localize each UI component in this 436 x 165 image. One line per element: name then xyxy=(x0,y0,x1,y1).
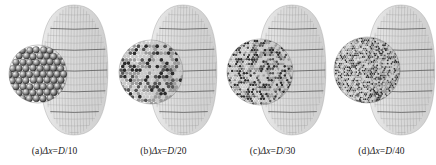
panel-a-caption-prefix: (a) xyxy=(32,146,43,156)
panel-c-caption-var: Δx xyxy=(260,146,270,156)
panel-c-caption: (c)Δx=D/30 xyxy=(218,146,327,157)
panel-b-caption-var: Δx xyxy=(152,146,162,156)
panel-d-caption: (d)Δx=D/40 xyxy=(327,146,436,157)
panel-a-rendering xyxy=(0,2,109,138)
panel-d-caption-prefix: (d) xyxy=(358,146,369,156)
panel-d-caption-var: Δx xyxy=(370,146,380,156)
panel-c-caption-num: D xyxy=(276,146,283,156)
panel-a-caption-var: Δx xyxy=(42,146,52,156)
figure-panel-d: (d)Δx=D/40 xyxy=(327,0,436,165)
figure-panel-c: (c)Δx=D/30 xyxy=(218,0,327,165)
panel-c-caption-den: /30 xyxy=(283,146,295,156)
panel-b-caption-den: /20 xyxy=(174,146,186,156)
figure-container: (a)Δx=D/10 (b)Δx=D/20 (c)Δx=D/30 (d)Δx=D… xyxy=(0,0,436,165)
panel-b-caption: (b)Δx=D/20 xyxy=(109,146,218,157)
panel-d-caption-den: /40 xyxy=(392,146,404,156)
panel-a-caption-num: D xyxy=(58,146,65,156)
panel-c-rendering xyxy=(218,2,327,138)
panel-b-caption-prefix: (b) xyxy=(140,146,151,156)
panel-c-caption-prefix: (c) xyxy=(250,146,261,156)
panel-a-caption: (a)Δx=D/10 xyxy=(0,146,109,157)
panel-a-caption-den: /10 xyxy=(65,146,77,156)
panel-d-rendering xyxy=(327,2,436,138)
figure-panel-b: (b)Δx=D/20 xyxy=(109,0,218,165)
panel-b-rendering xyxy=(109,2,218,138)
figure-panel-a: (a)Δx=D/10 xyxy=(0,0,109,165)
